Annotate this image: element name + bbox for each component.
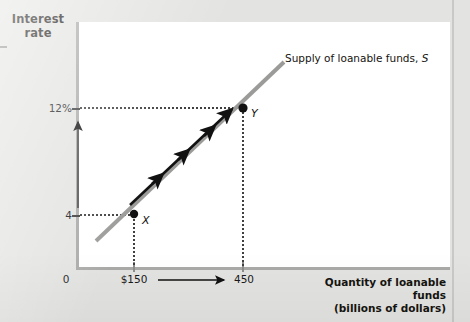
point-label-x: X (142, 214, 150, 227)
chart-overlay (0, 0, 470, 322)
point-label-y: Y (251, 107, 258, 120)
supply-curve-symbol: S (422, 52, 429, 64)
supply-curve-label-text: Supply of loanable funds, (285, 52, 418, 64)
data-point-x (130, 210, 138, 218)
data-point-y (238, 103, 247, 112)
supply-curve-label: Supply of loanable funds, S (285, 52, 428, 64)
figure-canvas: Interest rate Quantity of loanable funds… (0, 0, 470, 322)
supply-curve-line (96, 62, 284, 241)
